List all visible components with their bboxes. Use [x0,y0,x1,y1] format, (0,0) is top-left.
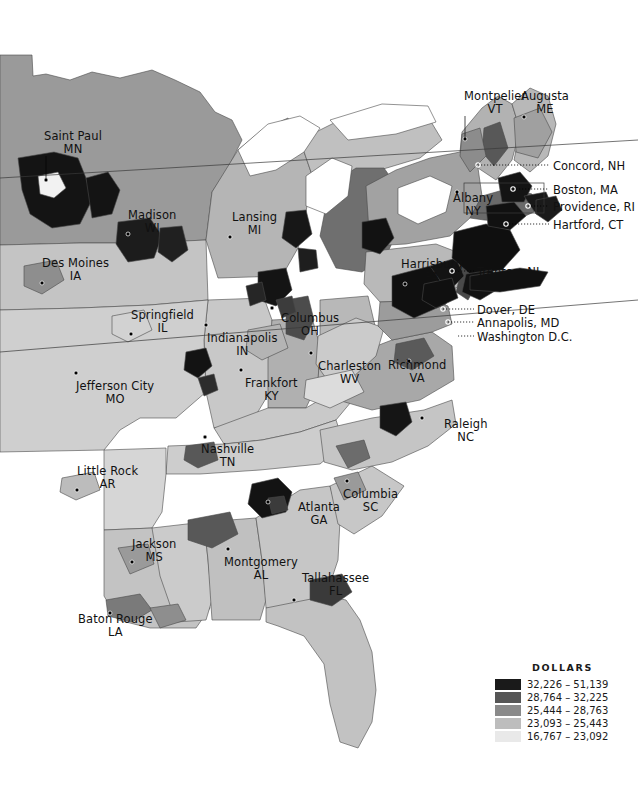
callout-label-providence-ri: Providence, RI [553,201,635,214]
capital-dot [266,500,270,504]
legend-row: 25,444 – 28,763 [495,705,638,716]
capital-dot [239,368,243,372]
legend-row: 23,093 – 25,443 [495,718,638,729]
legend-range-label: 32,226 – 51,139 [527,679,608,690]
callout-label-concord-nh: Concord, NH [553,160,625,173]
capital-dot [108,611,112,615]
capital-dot [203,435,207,439]
capital-dot [126,232,130,236]
callout-label-hartford-ct: Hartford, CT [553,219,623,232]
capital-dot [226,547,230,551]
capital-dot [309,351,313,355]
legend-range-label: 16,767 – 23,092 [527,731,608,742]
capital-dot [204,323,208,327]
capital-dot [228,235,232,239]
legend-row: 32,226 – 51,139 [495,679,638,690]
capital-dot [75,488,79,492]
legend-swatch [495,679,521,690]
capital-dot [345,479,349,483]
legend-rows: 32,226 – 51,13928,764 – 32,22525,444 – 2… [495,679,638,742]
capital-dot [403,282,407,286]
legend-range-label: 28,764 – 32,225 [527,692,608,703]
legend-swatch [495,718,521,729]
capital-dot [455,190,459,194]
capital-dot [407,359,411,363]
callout-label-trenton-nj: Trenton, NJ [477,266,539,279]
map-landmass [0,55,562,748]
capital-dot [292,598,296,602]
capital-dot [129,332,133,336]
legend-swatch [495,692,521,703]
callout-label-washington-d-c-: Washington D.C. [477,331,572,344]
capital-dot [420,416,424,420]
capital-dot [40,281,44,285]
legend-row: 16,767 – 23,092 [495,731,638,742]
map-legend: DOLLARS 32,226 – 51,13928,764 – 32,22525… [495,662,638,744]
capital-dot [74,371,78,375]
legend-range-label: 25,444 – 28,763 [527,705,608,716]
legend-title: DOLLARS [495,662,638,673]
legend-swatch [495,705,521,716]
callout-label-annapolis-md: Annapolis, MD [477,317,559,330]
callout-label-boston-ma: Boston, MA [553,184,618,197]
legend-range-label: 23,093 – 25,443 [527,718,608,729]
capital-dot [270,306,274,310]
legend-swatch [495,731,521,742]
capital-dot [130,560,134,564]
legend-row: 28,764 – 32,225 [495,692,638,703]
